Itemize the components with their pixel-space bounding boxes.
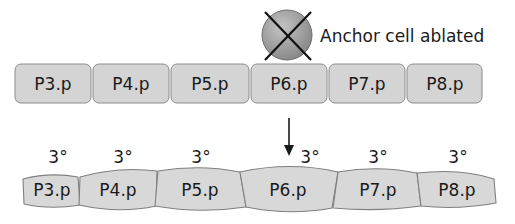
top-cell-label: P7.p [348,74,385,94]
vulval-induction-diagram: Anchor cell ablated P3.p P4.p P5.p P6.p … [0,0,515,224]
anchor-label: Anchor cell ablated [320,26,484,46]
bottom-cell-label: P6.p [269,180,306,200]
top-cell-label: P6.p [270,74,307,94]
bottom-cell-label: P4.p [99,180,136,200]
fate-label: 3° [113,147,132,167]
fate-label: 3° [300,147,319,167]
bottom-cell-label: P7.p [359,180,396,200]
down-arrow-icon [284,118,294,156]
fate-label: 3° [191,147,210,167]
anchor-cell [262,10,312,60]
fate-label: 3° [368,147,387,167]
top-cell-label: P4.p [112,74,149,94]
bottom-cell-label: P8.p [438,180,475,200]
top-cell-label: P3.p [34,74,71,94]
fate-labels: 3° 3° 3° 3° 3° 3° [48,147,467,167]
fate-label: 3° [448,147,467,167]
top-cell-label: P5.p [191,74,228,94]
fate-label: 3° [48,147,67,167]
top-cell-label: P8.p [426,74,463,94]
bottom-row [23,167,496,212]
bottom-cell-label: P5.p [181,180,218,200]
bottom-cell-label: P3.p [33,180,70,200]
top-row [15,64,482,103]
